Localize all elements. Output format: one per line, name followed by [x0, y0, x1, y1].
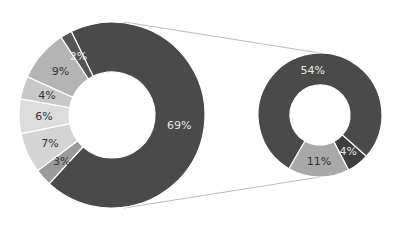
primary-label: 2% [70, 50, 87, 63]
donut-of-donut-chart: 69%3%7%6%4%9%2% 54%4%11% [0, 0, 412, 225]
primary-label: 6% [35, 110, 52, 123]
secondary-label: 11% [307, 155, 331, 168]
primary-label: 69% [167, 119, 191, 132]
primary-label: 9% [52, 65, 69, 78]
secondary-donut: 54%4%11% [258, 53, 382, 177]
primary-label: 4% [38, 89, 55, 102]
primary-donut: 69%3%7%6%4%9%2% [19, 22, 205, 208]
primary-label: 7% [41, 137, 58, 150]
secondary-label: 54% [300, 64, 324, 77]
